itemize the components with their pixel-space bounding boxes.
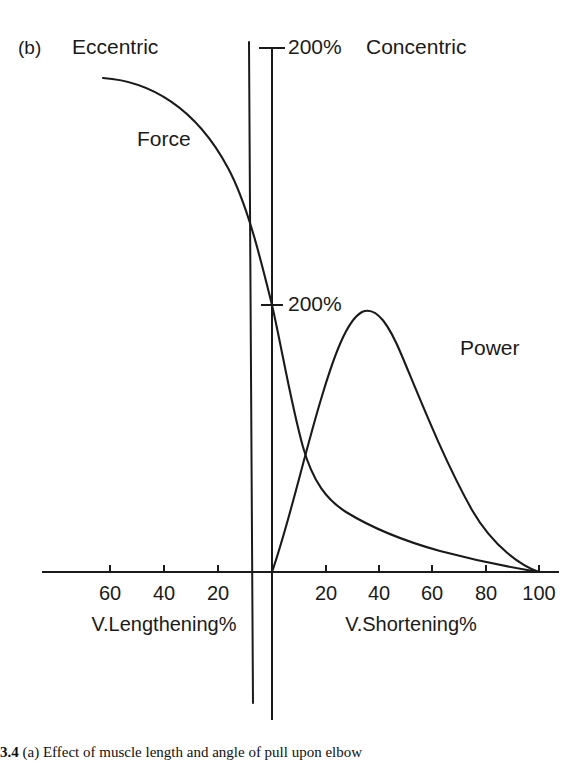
x-axis-label-shortening: V.Shortening% (286, 614, 536, 634)
x-tick-label-left-40: 40 (141, 583, 187, 603)
x-tick-label-left-20: 20 (195, 583, 241, 603)
figure-panel-b: (b) Eccentric Concentric 200% 200% Force… (0, 0, 583, 764)
y-tick-label-mid: 200% (288, 293, 342, 314)
x-tick-label-right-100: 100 (516, 583, 562, 603)
x-tick-label-left-60: 60 (87, 583, 133, 603)
x-tick-label-right-60: 60 (409, 583, 455, 603)
caption-number: 3.4 (0, 744, 19, 760)
panel-letter: (b) (18, 38, 41, 57)
curve-label-force: Force (137, 128, 191, 149)
plot-canvas (0, 0, 583, 764)
caption-text: (a) Effect of muscle length and angle of… (23, 744, 363, 760)
curve-label-power: Power (460, 337, 520, 358)
y-tick-label-top: 200% (288, 36, 342, 57)
figure-caption: 3.4 (a) Effect of muscle length and angl… (0, 744, 583, 764)
velocity-line (249, 42, 253, 703)
x-axis-ticks-left (110, 565, 218, 572)
region-label-concentric: Concentric (366, 36, 466, 57)
x-tick-label-right-20: 20 (303, 583, 349, 603)
region-label-eccentric: Eccentric (72, 36, 158, 57)
x-tick-label-right-40: 40 (356, 583, 402, 603)
force-curve (103, 78, 539, 572)
x-tick-label-right-80: 80 (463, 583, 509, 603)
x-axis-label-lengthening: V.Lengthening% (56, 614, 272, 634)
